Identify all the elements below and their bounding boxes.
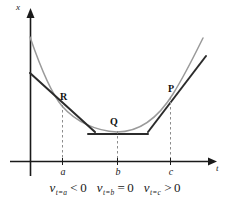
tick-label-c: c <box>164 167 178 177</box>
velocity-caption-a: vt=a<0 <box>50 181 87 194</box>
velocity-caption-row: vt=a<0 vt=b=0 vt=c>0 <box>0 181 230 205</box>
point-label-p: P <box>168 84 174 94</box>
caption-b-operator: = <box>117 181 124 194</box>
position-time-graph-figure: x t R Q P a b c vt=a<0 vt=b=0 vt=c>0 <box>0 0 230 212</box>
velocity-caption-b: vt=b=0 <box>97 181 134 194</box>
tick-label-a: a <box>56 167 70 177</box>
caption-c-variable: v <box>144 181 150 194</box>
tangent-line-p <box>148 56 206 132</box>
caption-a-value: 0 <box>80 181 87 194</box>
velocity-caption-c: vt=c>0 <box>144 181 181 194</box>
caption-a-subscript: t=a <box>56 189 68 197</box>
point-label-q: Q <box>110 117 118 127</box>
x-axis-label: t <box>216 164 219 173</box>
y-axis-label: x <box>16 3 20 12</box>
caption-c-subscript: t=c <box>150 189 161 197</box>
tangent-line-r <box>30 73 95 132</box>
caption-c-value: 0 <box>174 181 181 194</box>
caption-a-operator: < <box>70 181 77 194</box>
point-label-r: R <box>60 92 67 102</box>
tick-label-b: b <box>111 167 125 177</box>
caption-c-operator: > <box>164 181 171 194</box>
caption-b-variable: v <box>97 181 103 194</box>
y-axis-arrow-icon <box>27 8 35 18</box>
caption-b-subscript: t=b <box>103 189 115 197</box>
caption-a-variable: v <box>50 181 56 194</box>
caption-b-value: 0 <box>127 181 134 194</box>
